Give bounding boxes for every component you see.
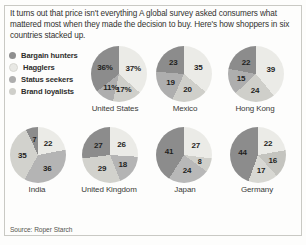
pie-slice-label: 36% bbox=[97, 63, 112, 72]
pie-slice-label: 23 bbox=[169, 58, 178, 67]
pie-slice-label: 35 bbox=[18, 150, 27, 159]
pie-chart-country-label: Japan bbox=[148, 185, 222, 194]
pie-chart-country-label: India bbox=[0, 185, 74, 194]
pie-slice-label: 16 bbox=[269, 156, 278, 165]
pie-slice-label: 22 bbox=[264, 138, 273, 147]
pie-chart: 22161744 bbox=[230, 127, 286, 183]
pie-slice-label: 18 bbox=[118, 160, 127, 169]
pie-chart: 35201923 bbox=[156, 46, 212, 102]
pie-slice-label: 20 bbox=[183, 85, 192, 94]
pie-chart-cell: 35201923Mexico bbox=[148, 46, 222, 113]
pie-slices bbox=[91, 46, 147, 102]
pie-chart-country-label: Hong Kong bbox=[218, 104, 292, 113]
pie-slice-label: 8 bbox=[198, 157, 202, 166]
pie-slice-label: 41 bbox=[165, 146, 174, 155]
source-note: Source: Roper Starch bbox=[10, 226, 72, 233]
pie-slice-label: 24 bbox=[251, 85, 260, 94]
pie-chart-country-label: Germany bbox=[220, 185, 294, 194]
pie-slice-label: 37% bbox=[126, 63, 141, 72]
pie-chart: 2236357 bbox=[10, 127, 66, 183]
pie-slice-label: 17 bbox=[257, 166, 266, 175]
pie-chart-cell: 22161744Germany bbox=[220, 127, 294, 194]
pie-chart-cell: 37%17%11%36%United States bbox=[78, 46, 152, 113]
pie-slice-label: 19 bbox=[166, 77, 175, 86]
pie-slice-label: 11% bbox=[103, 83, 118, 92]
pie-slice-label: 27 bbox=[192, 140, 201, 149]
pie-chart-country-label: Mexico bbox=[148, 104, 222, 113]
pie-chart: 26182927 bbox=[82, 127, 138, 183]
pie-slice-label: 29 bbox=[98, 164, 107, 173]
pie-slice-label: 27 bbox=[94, 140, 103, 149]
pie-slice-label: 22 bbox=[44, 138, 53, 147]
pie-slice-label: 39 bbox=[267, 64, 276, 73]
pie-slices bbox=[82, 127, 138, 183]
pie-slice-label: 44 bbox=[238, 148, 247, 157]
pie-chart-cell: 39241522Hong Kong bbox=[218, 46, 292, 113]
pie-slice-label: 7 bbox=[32, 134, 36, 143]
pie-chart-cell: 2236357India bbox=[0, 127, 74, 194]
pie-chart: 39241522 bbox=[228, 46, 284, 102]
pie-chart-country-label: United States bbox=[78, 104, 152, 113]
pie-slice-label: 26 bbox=[117, 140, 126, 149]
pie-chart: 37%17%11%36% bbox=[91, 46, 147, 102]
infographic-page: It turns out that price isn't everything… bbox=[0, 0, 306, 245]
pie-slice-label: 24 bbox=[183, 166, 192, 175]
pie-chart-cell: 2782441Japan bbox=[148, 127, 222, 194]
pie-chart-grid: 37%17%11%36%United States35201923Mexico3… bbox=[0, 0, 306, 245]
pie-chart-cell: 26182927United Kingdom bbox=[72, 127, 146, 194]
pie-slice-label: 17% bbox=[116, 84, 131, 93]
pie-chart-country-label: United Kingdom bbox=[72, 185, 146, 194]
pie-slice-label: 36 bbox=[43, 163, 52, 172]
pie-slice-label: 22 bbox=[242, 57, 251, 66]
pie-chart: 2782441 bbox=[156, 127, 212, 183]
pie-slice-label: 15 bbox=[237, 74, 246, 83]
pie-slice-label: 35 bbox=[194, 63, 203, 72]
